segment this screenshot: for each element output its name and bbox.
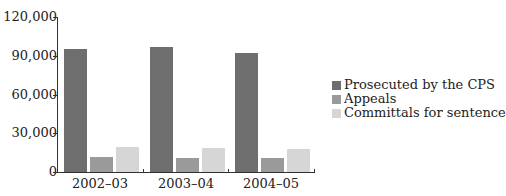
bar: [116, 147, 139, 172]
bar: [64, 49, 87, 172]
y-axis-line: [57, 17, 58, 173]
x-tick-label: 2002–03: [60, 177, 140, 190]
y-tick: [53, 172, 57, 173]
x-axis-line: [57, 172, 314, 173]
legend-item-committals: Committals for sentence: [332, 106, 506, 120]
y-tick: [53, 17, 57, 18]
legend-label: Committals for sentence: [344, 106, 506, 120]
y-tick: [53, 56, 57, 57]
x-tick: [314, 169, 315, 173]
bar: [261, 158, 284, 172]
y-tick-label: 30,000: [12, 126, 58, 139]
legend: Prosecuted by the CPS Appeals Committals…: [332, 78, 506, 120]
legend-item-appeals: Appeals: [332, 92, 506, 106]
bar: [287, 149, 310, 172]
x-tick: [228, 169, 229, 173]
y-tick: [53, 133, 57, 134]
legend-label: Prosecuted by the CPS: [344, 78, 495, 92]
bar: [235, 53, 258, 172]
y-tick: [53, 95, 57, 96]
bar: [202, 148, 225, 172]
bar: [150, 47, 173, 172]
bar: [176, 158, 199, 172]
y-tick-label: 60,000: [12, 88, 58, 101]
legend-label: Appeals: [344, 92, 396, 106]
x-tick-label: 2003–04: [146, 177, 226, 190]
x-tick: [143, 169, 144, 173]
y-tick-label: 90,000: [12, 49, 58, 62]
y-tick-label: 120,000: [3, 10, 57, 23]
legend-swatch-icon: [332, 95, 341, 104]
x-tick-label: 2004–05: [231, 177, 311, 190]
legend-item-prosecuted: Prosecuted by the CPS: [332, 78, 506, 92]
bar: [90, 157, 113, 172]
legend-swatch-icon: [332, 81, 341, 90]
legend-swatch-icon: [332, 109, 341, 118]
